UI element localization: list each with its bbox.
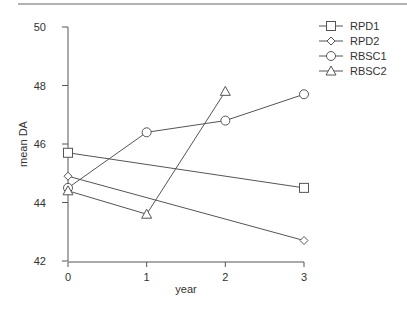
square-marker-icon <box>64 148 73 157</box>
square-marker-icon <box>327 22 336 31</box>
x-tick-label: 0 <box>65 271 71 283</box>
legend-label: RPD2 <box>350 35 379 47</box>
series-line <box>68 91 225 214</box>
legend-label: RPD1 <box>350 20 379 32</box>
circle-marker-icon <box>142 128 151 137</box>
diamond-marker-icon <box>327 37 335 45</box>
y-tick-label: 44 <box>34 197 46 209</box>
series-rbsc2 <box>63 86 230 218</box>
x-tick-label: 1 <box>144 271 150 283</box>
series-group <box>63 86 309 244</box>
legend-label: RBSC1 <box>350 50 387 62</box>
series-line <box>68 176 304 240</box>
circle-marker-icon <box>300 90 309 99</box>
series-line <box>68 94 304 188</box>
triangle-marker-icon <box>142 209 152 218</box>
legend-item-rpd2: RPD2 <box>319 35 379 47</box>
square-marker-icon <box>300 183 309 192</box>
series-rpd1 <box>64 148 309 192</box>
legend-item-rbsc2: RBSC2 <box>319 65 387 77</box>
legend-item-rbsc1: RBSC1 <box>319 50 387 62</box>
line-chart: 42444648500123 RPD1RPD2RBSC1RBSC2 year m… <box>0 0 407 317</box>
diamond-marker-icon <box>64 172 72 180</box>
legend: RPD1RPD2RBSC1RBSC2 <box>319 20 387 77</box>
y-tick-label: 42 <box>34 255 46 267</box>
y-axis-label: mean DA <box>17 120 29 167</box>
series-line <box>68 153 304 188</box>
x-tick-label: 2 <box>222 271 228 283</box>
y-tick-label: 48 <box>34 80 46 92</box>
axes: 42444648500123 <box>34 21 307 283</box>
x-axis-label: year <box>175 283 197 295</box>
series-rbsc1 <box>64 90 309 193</box>
y-tick-label: 50 <box>34 21 46 33</box>
x-tick-label: 3 <box>301 271 307 283</box>
legend-item-rpd1: RPD1 <box>319 20 379 32</box>
diamond-marker-icon <box>300 237 308 245</box>
legend-label: RBSC2 <box>350 65 387 77</box>
triangle-marker-icon <box>220 86 230 95</box>
circle-marker-icon <box>327 52 336 61</box>
circle-marker-icon <box>221 116 230 125</box>
y-tick-label: 46 <box>34 138 46 150</box>
